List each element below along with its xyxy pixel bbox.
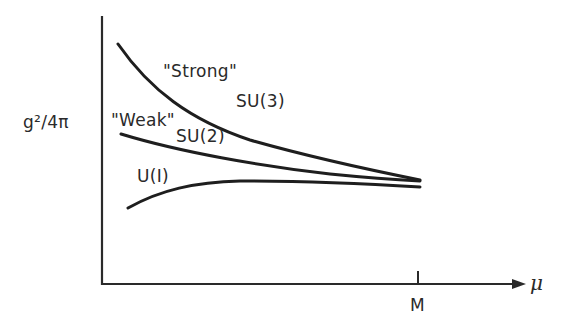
coupling-chart bbox=[0, 0, 562, 330]
x-axis-arrow-icon bbox=[512, 279, 526, 289]
curve-u1 bbox=[128, 181, 420, 208]
label-su3: SU(3) bbox=[236, 91, 285, 111]
y-axis-label: g²/4π bbox=[23, 112, 69, 132]
label-u1: U(I) bbox=[137, 166, 169, 186]
x-axis-label: μ bbox=[530, 271, 543, 295]
label-weak: "Weak" bbox=[111, 110, 175, 130]
label-strong: "Strong" bbox=[163, 61, 237, 81]
label-su2: SU(2) bbox=[176, 126, 225, 146]
tick-label-m: M bbox=[410, 295, 425, 315]
